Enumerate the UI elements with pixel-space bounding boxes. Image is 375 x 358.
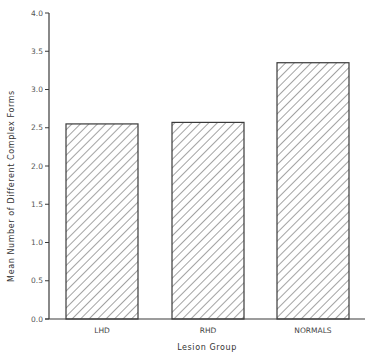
x-axis-title: Lesion Group bbox=[177, 343, 237, 352]
y-tick-label: 0.0 bbox=[31, 315, 43, 324]
y-axis: 0.00.51.01.52.02.53.03.54.0 bbox=[31, 9, 49, 324]
y-tick-label: 4.0 bbox=[31, 9, 43, 18]
y-tick-label: 3.5 bbox=[31, 47, 43, 56]
bar-rhd bbox=[172, 122, 244, 319]
x-category-label: NORMALS bbox=[294, 326, 332, 335]
y-tick-label: 3.0 bbox=[31, 85, 43, 94]
bar-chart: 0.00.51.01.52.02.53.03.54.0 LHDRHDNORMAL… bbox=[0, 0, 375, 358]
x-category-label: LHD bbox=[94, 326, 110, 335]
x-category-label: RHD bbox=[200, 326, 217, 335]
y-ticks: 0.00.51.01.52.02.53.03.54.0 bbox=[31, 9, 49, 324]
y-tick-label: 1.5 bbox=[31, 200, 43, 209]
y-tick-label: 0.5 bbox=[31, 276, 43, 285]
bar-normals bbox=[277, 63, 349, 319]
y-tick-label: 1.0 bbox=[31, 238, 43, 247]
category-labels: LHDRHDNORMALS bbox=[94, 326, 332, 335]
y-tick-label: 2.5 bbox=[31, 123, 43, 132]
bar-lhd bbox=[66, 124, 138, 319]
y-axis-title: Mean Number of Different Complex Forms bbox=[7, 90, 16, 282]
y-tick-label: 2.0 bbox=[31, 162, 43, 171]
bars bbox=[66, 63, 349, 319]
